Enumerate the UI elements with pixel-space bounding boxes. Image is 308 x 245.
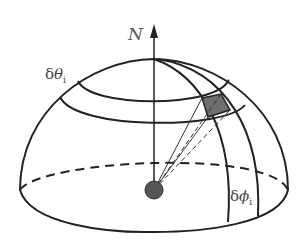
delta-theta-symbol: θ bbox=[54, 65, 63, 83]
delta-phi-symbol: ϕ bbox=[239, 187, 249, 205]
latitude-arc-upper-right bbox=[228, 80, 229, 81]
delta-theta-subscript: i bbox=[63, 75, 66, 85]
delta-phi-label: δϕi bbox=[230, 189, 252, 207]
hemisphere-diagram bbox=[0, 0, 308, 245]
normal-arrowhead-icon bbox=[150, 24, 158, 38]
meridian-left bbox=[154, 59, 229, 222]
delta-phi-subscript: i bbox=[249, 197, 252, 207]
source-point bbox=[145, 181, 163, 199]
normal-label: N bbox=[128, 26, 143, 43]
delta-theta-delta: δ bbox=[45, 65, 54, 83]
delta-phi-delta: δ bbox=[230, 187, 239, 205]
delta-theta-label: δθi bbox=[45, 67, 66, 85]
